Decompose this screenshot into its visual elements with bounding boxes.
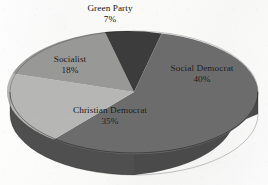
label-social-democrat-name: Social Democrat (148, 63, 256, 74)
label-green-party-value: 7% (58, 14, 162, 25)
label-social-democrat: Social Democrat 40% (148, 63, 256, 86)
label-social-democrat-value: 40% (148, 74, 256, 85)
pie-chart-figure: Green Party 7% Socialist 18% Social Demo… (0, 0, 268, 185)
label-socialist-value: 18% (24, 65, 116, 76)
pie-chart-graphic (0, 0, 268, 185)
label-green-party-name: Green Party (58, 3, 162, 14)
label-christian-democrat: Christian Democrat 35% (40, 105, 180, 128)
label-socialist: Socialist 18% (24, 54, 116, 77)
label-socialist-name: Socialist (24, 54, 116, 65)
label-christian-democrat-name: Christian Democrat (40, 105, 180, 116)
label-christian-democrat-value: 35% (40, 116, 180, 127)
label-green-party: Green Party 7% (58, 3, 162, 26)
